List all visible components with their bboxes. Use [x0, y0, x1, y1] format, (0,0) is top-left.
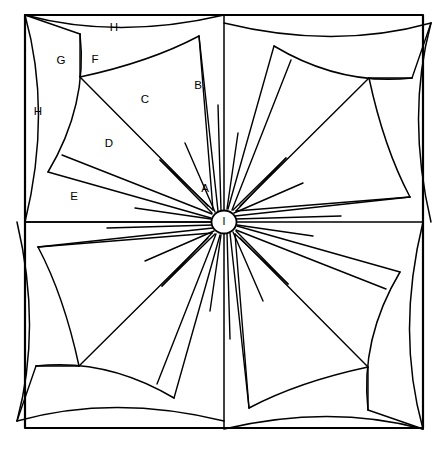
region-label-c: C: [141, 93, 149, 105]
region-label-a: A: [201, 182, 209, 194]
diagram-canvas: A B C D E F G H H I: [0, 0, 445, 452]
region-label-i-center: I: [223, 215, 226, 227]
pattern-illustration: A B C D E F G H H I: [0, 0, 445, 452]
region-label-f: F: [91, 53, 98, 65]
region-label-d: D: [105, 137, 113, 149]
region-label-e: E: [70, 190, 78, 202]
region-label-h-top: H: [110, 21, 118, 33]
region-label-g: G: [57, 54, 66, 66]
region-label-h-left: H: [34, 105, 42, 117]
region-label-b: B: [194, 79, 202, 91]
